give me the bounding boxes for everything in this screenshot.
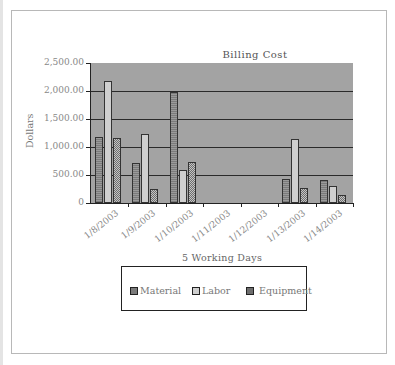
gridline: [91, 147, 353, 148]
bar-equipment: [113, 138, 121, 203]
bar-material: [95, 137, 103, 203]
window-edge: [0, 0, 3, 365]
x-tick: [353, 203, 354, 207]
legend-item-equipment: Equipment: [246, 285, 312, 296]
bar-equipment: [300, 188, 308, 203]
y-tick-label: 0: [20, 197, 84, 207]
y-axis: [90, 63, 91, 204]
bar-labor: [104, 81, 112, 203]
legend-label: Material: [140, 285, 181, 296]
bar-material: [320, 180, 328, 203]
x-axis: [90, 203, 354, 204]
y-tick: [86, 203, 91, 204]
material-swatch-icon: [130, 287, 138, 295]
bar-labor: [179, 170, 187, 203]
x-axis-title: 5 Working Days: [90, 252, 354, 263]
x-tick: [166, 203, 167, 207]
x-tick: [316, 203, 317, 207]
x-tick: [203, 203, 204, 207]
plot-area: [91, 63, 353, 203]
y-tick-label: 2,500.00: [20, 57, 84, 67]
x-tick: [241, 203, 242, 207]
bar-material: [170, 92, 178, 203]
gridline: [91, 91, 353, 92]
x-tick: [278, 203, 279, 207]
y-tick: [86, 63, 91, 64]
legend-label: Equipment: [259, 285, 312, 296]
legend: Material Labor Equipment: [121, 266, 307, 311]
bar-material: [282, 179, 290, 203]
chart-title: Billing Cost: [90, 49, 395, 60]
equipment-swatch-icon: [246, 287, 254, 295]
y-tick: [86, 147, 91, 148]
y-tick: [86, 91, 91, 92]
bar-material: [132, 163, 140, 203]
legend-item-labor: Labor: [192, 285, 230, 296]
bar-equipment: [338, 195, 346, 203]
y-tick-label: 2,000.00: [20, 85, 84, 95]
gridline: [91, 119, 353, 120]
y-tick: [86, 119, 91, 120]
bar-equipment: [150, 189, 158, 203]
bar-equipment: [188, 162, 196, 203]
legend-item-material: Material: [130, 285, 181, 296]
y-tick-label: 500.00: [20, 169, 84, 179]
gridline: [91, 175, 353, 176]
bar-labor: [291, 139, 299, 203]
bar-labor: [141, 134, 149, 203]
bar-labor: [329, 186, 337, 203]
y-tick: [86, 175, 91, 176]
legend-label: Labor: [202, 285, 230, 296]
labor-swatch-icon: [192, 287, 200, 295]
x-tick: [128, 203, 129, 207]
y-axis-title: Dollars: [24, 114, 35, 149]
